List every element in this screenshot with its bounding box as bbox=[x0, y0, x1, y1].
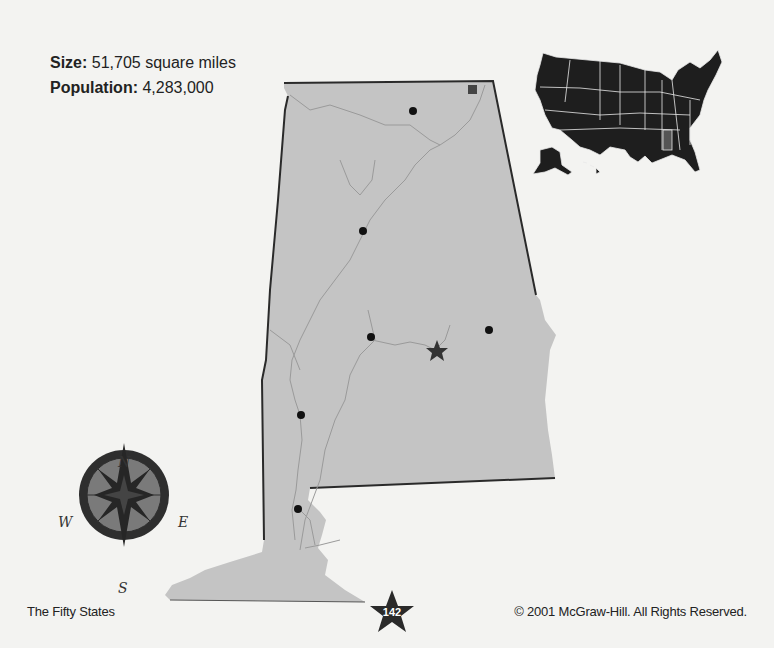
compass-east-label: E bbox=[178, 514, 188, 530]
landmark-square-icon[interactable] bbox=[468, 85, 477, 94]
page-number: 142 bbox=[375, 606, 409, 618]
us-locator-map bbox=[533, 50, 722, 175]
city-marker[interactable] bbox=[485, 326, 493, 334]
compass-north-label: N bbox=[118, 454, 130, 470]
city-marker[interactable] bbox=[409, 107, 417, 115]
alabama-highlight bbox=[663, 130, 672, 150]
city-marker[interactable] bbox=[294, 505, 302, 513]
city-marker[interactable] bbox=[359, 227, 367, 235]
footer-book-title: The Fifty States bbox=[27, 604, 115, 619]
alaska-shape bbox=[533, 147, 572, 175]
contiguous-us-shape bbox=[535, 50, 722, 172]
state-shape bbox=[165, 81, 556, 602]
city-marker[interactable] bbox=[367, 333, 375, 341]
hawaii-shape bbox=[583, 162, 600, 174]
footer-copyright: © 2001 McGraw-Hill. All Rights Reserved. bbox=[514, 604, 747, 619]
city-marker[interactable] bbox=[297, 411, 305, 419]
map-canvas bbox=[0, 0, 774, 648]
compass-west-label: W bbox=[58, 514, 72, 530]
state-map bbox=[165, 81, 556, 602]
compass-south-label: S bbox=[118, 580, 128, 596]
